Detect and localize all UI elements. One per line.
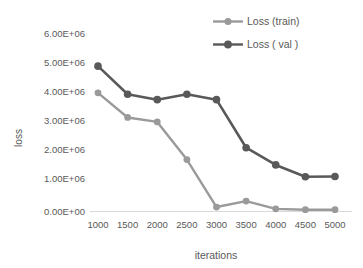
legend-item-train[interactable]: Loss (train) [213,15,300,27]
line-chart: 6.00E+06 5.00E+06 4.00E+06 3.00E+06 2.00… [0,0,363,268]
series-line [98,93,335,210]
series-train [95,89,339,213]
x-tick-label: 3500 [236,219,257,230]
x-tick-label: 2000 [147,219,168,230]
data-point[interactable] [243,198,250,205]
data-point[interactable] [153,96,161,104]
plot-area [94,62,339,213]
data-point[interactable] [183,156,190,163]
chart-legend: Loss (train) Loss ( val ) [213,15,300,50]
x-tick-label: 1500 [117,219,138,230]
y-axis-tick-labels: 6.00E+06 5.00E+06 4.00E+06 3.00E+06 2.00… [44,28,85,217]
chart-container: 6.00E+06 5.00E+06 4.00E+06 3.00E+06 2.00… [0,0,363,268]
data-point[interactable] [94,62,102,70]
y-tick-label: 1.00E+06 [44,173,85,184]
x-axis-tick-labels: 100015002000250030003500400045005000 [87,219,345,230]
y-tick-label: 2.00E+06 [44,144,85,155]
legend-label-val: Loss ( val ) [247,38,298,50]
data-point[interactable] [95,89,102,96]
data-point[interactable] [124,91,132,99]
x-tick-label: 5000 [324,219,345,230]
data-point[interactable] [302,206,309,213]
y-tick-label: 3.00E+06 [44,115,85,126]
series-val [94,62,339,180]
x-axis-title: iterations [195,249,238,261]
x-tick-label: 4500 [295,219,316,230]
y-tick-label: 0.00E+00 [44,206,85,217]
legend-label-train: Loss (train) [247,15,300,27]
x-tick-label: 1000 [87,219,108,230]
data-point[interactable] [213,204,220,211]
x-tick-label: 4000 [265,219,286,230]
data-point[interactable] [154,119,161,126]
data-point[interactable] [272,161,280,169]
data-point[interactable] [332,206,339,213]
y-axis-title: loss [13,129,24,147]
data-point[interactable] [331,173,339,181]
data-point[interactable] [213,96,221,104]
legend-item-val[interactable]: Loss ( val ) [213,38,298,50]
y-tick-label: 5.00E+06 [44,57,85,68]
legend-marker-val [224,41,232,49]
x-tick-label: 3000 [206,219,227,230]
y-tick-label: 4.00E+06 [44,86,85,97]
y-tick-label: 6.00E+06 [44,28,85,39]
series-line [98,66,335,177]
data-point[interactable] [124,114,131,121]
data-point[interactable] [183,91,191,99]
data-point[interactable] [272,205,279,212]
data-point[interactable] [242,144,250,152]
x-tick-label: 2500 [176,219,197,230]
data-point[interactable] [302,173,310,181]
legend-marker-train [224,18,231,25]
